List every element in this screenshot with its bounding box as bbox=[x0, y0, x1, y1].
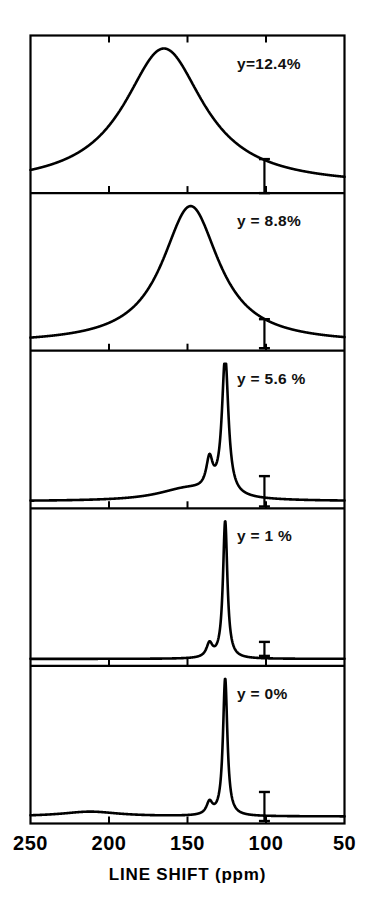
error-bar-3 bbox=[259, 476, 270, 506]
stacked-spectra-chart: y=12.4%y = 8.8%y = 5.6 %y = 1 %y = 0%250… bbox=[0, 0, 367, 911]
x-tick-marks bbox=[109, 36, 266, 824]
panel-annotation-4: y = 1 % bbox=[237, 527, 292, 544]
x-tick-label-250: 250 bbox=[13, 832, 48, 854]
panel-annotation-5: y = 0% bbox=[237, 685, 288, 702]
x-tick-label-50: 50 bbox=[333, 832, 356, 854]
error-bar-2 bbox=[259, 319, 270, 348]
x-axis-tick-labels: 25020015010050 bbox=[13, 832, 356, 854]
spectrum-trace-4 bbox=[31, 521, 345, 659]
x-tick-label-150: 150 bbox=[170, 832, 205, 854]
spectra-svg: y=12.4%y = 8.8%y = 5.6 %y = 1 %y = 0%250… bbox=[0, 0, 367, 911]
panel-annotation-1: y=12.4% bbox=[237, 55, 301, 72]
panel-annotation-2: y = 8.8% bbox=[237, 212, 301, 229]
spectrum-trace-5 bbox=[31, 679, 345, 816]
x-axis-title: LINE SHIFT (ppm) bbox=[109, 865, 266, 884]
panel-annotation-3: y = 5.6 % bbox=[237, 370, 306, 387]
figure-root: HEAVILY DOPED POLYMERS y=12.4%y = 8.8%y … bbox=[0, 0, 367, 911]
error-bar-4 bbox=[259, 642, 270, 656]
x-tick-label-200: 200 bbox=[92, 832, 127, 854]
x-tick-label-100: 100 bbox=[249, 832, 284, 854]
error-bar-1 bbox=[259, 159, 270, 193]
